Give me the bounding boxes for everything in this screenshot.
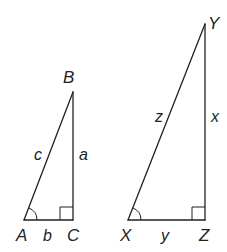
similar-triangles-diagram: B A C c a b Y X Z z x y [0,0,227,252]
side-label-x: x [210,108,220,125]
vertex-label-y: Y [208,14,221,33]
right-angle-z-marker [192,207,205,220]
triangle-abc: B A C c a b [15,68,88,245]
side-z-hypotenuse [128,24,205,220]
side-label-y: y [160,227,170,244]
side-label-c: c [34,146,42,163]
side-c-hypotenuse [24,92,73,220]
angle-x-arc [133,208,141,220]
right-angle-c-marker [60,207,73,220]
angle-a-arc [29,208,37,220]
vertex-label-a: A [15,226,27,245]
vertex-label-z: Z [198,226,210,245]
vertex-label-b: B [63,68,74,87]
side-label-z: z [154,108,163,125]
side-label-a: a [79,146,88,163]
side-label-b: b [43,227,52,244]
triangle-xyz: Y X Z z x y [119,14,221,245]
vertex-label-x: X [119,226,132,245]
vertex-label-c: C [67,226,80,245]
